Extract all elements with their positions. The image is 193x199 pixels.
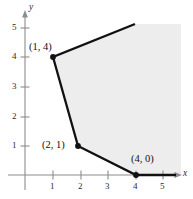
vertex-marker-1-4 <box>50 54 56 60</box>
x-tick-label-1: 1 <box>50 182 55 191</box>
point-label-1-4: (1, 4) <box>29 42 52 53</box>
graph-canvas <box>0 0 193 199</box>
feasible-region-figure: y x 1 2 3 4 5 1 2 3 4 5 (1, 4) (2, 1) (4… <box>0 0 193 199</box>
y-axis-label: y <box>29 3 33 13</box>
x-tick-label-3: 3 <box>105 182 110 191</box>
vertex-marker-4-0 <box>133 172 139 178</box>
y-tick-label-2: 2 <box>12 112 17 121</box>
y-tick-label-5: 5 <box>12 23 17 32</box>
point-label-4-0: (4, 0) <box>131 154 154 165</box>
vertex-marker-2-1 <box>75 143 81 149</box>
x-tick-label-2: 2 <box>78 182 83 191</box>
point-label-2-1: (2, 1) <box>42 140 65 151</box>
y-tick-label-3: 3 <box>12 82 17 91</box>
y-tick-label-4: 4 <box>12 52 17 61</box>
y-tick-label-1: 1 <box>12 141 17 150</box>
y-axis-arrowhead <box>22 10 28 18</box>
x-axis-label: x <box>183 169 187 179</box>
x-tick-label-5: 5 <box>160 182 165 191</box>
shaded-feasible-region <box>53 24 181 175</box>
x-tick-label-4: 4 <box>133 182 138 191</box>
